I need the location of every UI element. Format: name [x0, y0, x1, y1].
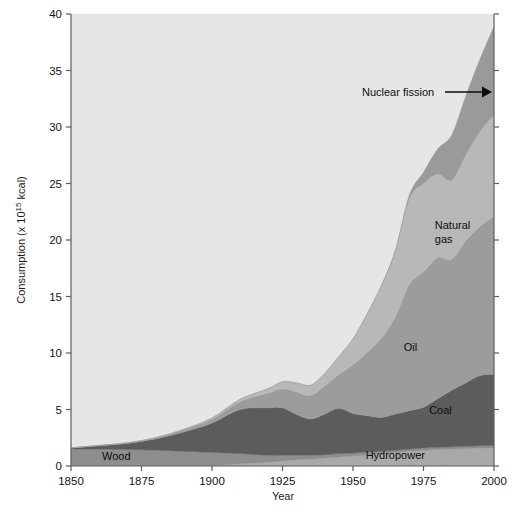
y-axis-title-suffix: kcal) — [15, 176, 27, 202]
y-tick-label: 20 — [49, 234, 62, 246]
series-label-hydropower: Hydropower — [366, 449, 426, 461]
nuclear-fission-annotation-label: Nuclear fission — [362, 86, 434, 98]
x-tick-label: 2000 — [481, 475, 507, 487]
y-axis-title: Consumption (x 1015 kcal) — [14, 176, 27, 304]
energy-consumption-stacked-area-chart: 0510152025303540 18501875190019251950197… — [0, 0, 522, 525]
x-tick-label: 1875 — [129, 475, 155, 487]
x-tick-label: 1900 — [199, 475, 225, 487]
y-tick-label: 35 — [49, 65, 62, 77]
y-tick-label: 30 — [49, 121, 62, 133]
x-tick-label: 1950 — [340, 475, 366, 487]
series-label-wood: Wood — [102, 450, 131, 462]
y-tick-label: 40 — [49, 8, 62, 20]
x-tick-label: 1975 — [411, 475, 437, 487]
x-tick-label: 1850 — [58, 475, 84, 487]
y-tick-label: 0 — [56, 460, 62, 472]
y-tick-label: 5 — [56, 404, 62, 416]
svg-text:Consumption (x 1015 kcal): Consumption (x 1015 kcal) — [14, 176, 27, 304]
series-label-natural-gas: Natural — [435, 219, 470, 231]
y-tick-label: 15 — [49, 291, 62, 303]
x-tick-label: 1925 — [270, 475, 296, 487]
y-tick-label: 25 — [49, 178, 62, 190]
series-label-coal: Coal — [429, 404, 452, 416]
series-label-oil: Oil — [404, 341, 417, 353]
x-axis-title: Year — [272, 490, 295, 502]
series-label-natural-gas-line2: gas — [435, 233, 453, 245]
y-tick-label: 10 — [49, 347, 62, 359]
y-axis-title-prefix: Consumption (x 10 — [15, 211, 27, 303]
